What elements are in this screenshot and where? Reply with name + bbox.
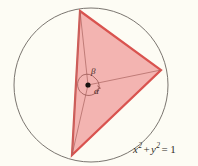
figure-canvas — [0, 0, 198, 166]
origin-dot — [85, 82, 90, 87]
geometry-figure: β α x2+y2=1 — [0, 0, 198, 166]
